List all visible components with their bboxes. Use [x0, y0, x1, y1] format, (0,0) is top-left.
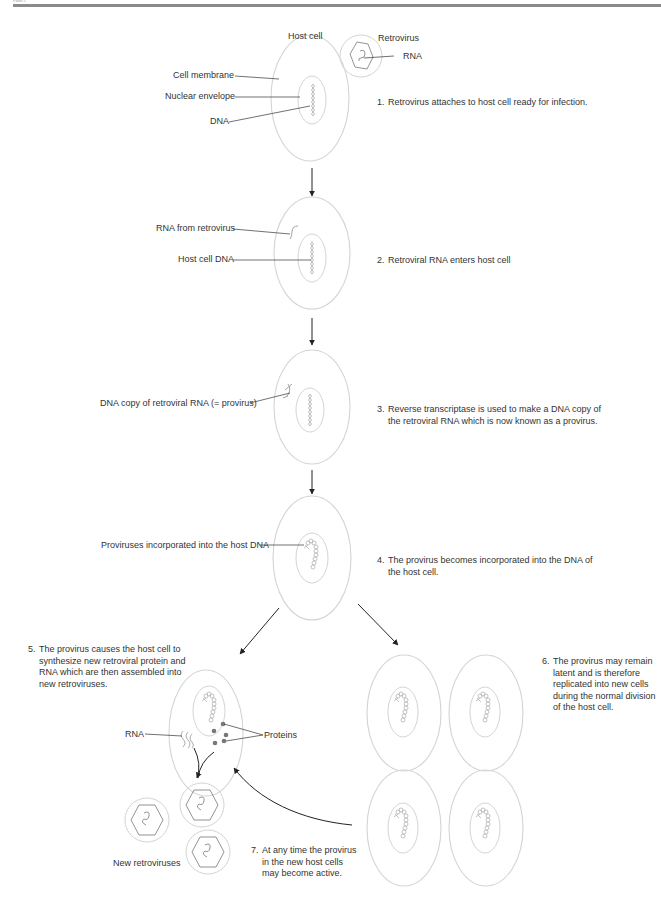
label-dna-copy-provirus: DNA copy of retroviral RNA (= provirus) [100, 398, 257, 409]
label-cell-membrane: Cell membrane [173, 70, 234, 81]
step-2-number: 2. [377, 255, 385, 267]
stage-2-host-cell [274, 197, 350, 309]
label-host-cell: Host cell [288, 31, 323, 42]
step-4-number: 4. [377, 555, 385, 567]
label-new-retroviruses: New retroviruses [113, 858, 181, 869]
stage-1-retrovirus [340, 35, 382, 77]
step-6-text: The provirus may remain latent and is th… [542, 656, 660, 714]
label-proviruses-incorporated: Proviruses incorporated into the host DN… [101, 540, 269, 551]
step-4: 4. The provirus becomes incorporated int… [377, 555, 607, 578]
step-7-text: At any time the provirus in the new host… [251, 845, 361, 880]
label-dna: DNA [210, 116, 229, 127]
step-3-number: 3. [377, 404, 385, 416]
stage-2-leader-lines [233, 229, 311, 260]
step-5: 5. The provirus causes the host cell to … [28, 644, 188, 690]
label-nuclear-envelope: Nuclear envelope [165, 91, 235, 102]
step-6-number: 6. [542, 656, 550, 668]
arrow-4-to-6 [358, 604, 398, 645]
label-retrovirus: Retrovirus [378, 33, 419, 44]
retrovirus-lifecycle-diagram [0, 0, 661, 909]
protein-dots [212, 722, 229, 746]
step-3: 3. Reverse transcriptase is used to make… [377, 404, 607, 427]
step-5-text: The provirus causes the host cell to syn… [28, 644, 188, 690]
assembly-arrow-right [198, 752, 214, 778]
stage-5-leader-lines [145, 724, 263, 741]
label-host-cell-dna: Host cell DNA [178, 254, 234, 265]
step-6: 6. The provirus may remain latent and is… [542, 656, 660, 714]
step-4-text: The provirus becomes incorporated into t… [377, 555, 607, 578]
step-7: 7. At any time the provirus in the new h… [251, 845, 361, 880]
label-rna: RNA [403, 51, 422, 62]
stage-3-host-cell [274, 350, 350, 464]
reactivation-arrow [234, 768, 352, 825]
step-7-number: 7. [251, 845, 259, 857]
step-2-text: Retroviral RNA enters host cell [377, 255, 657, 267]
label-rna-stage5: RNA [125, 729, 144, 740]
label-proteins: Proteins [264, 730, 297, 741]
stage-4-host-cell [273, 496, 351, 620]
step-5-number: 5. [28, 644, 36, 656]
arrow-4-to-5 [240, 608, 279, 654]
step-1-text: Retrovirus attaches to host cell ready f… [377, 97, 657, 109]
stage-6-daughter-cells [367, 655, 523, 886]
step-1-number: 1. [377, 97, 385, 109]
step-3-text: Reverse transcriptase is used to make a … [377, 404, 607, 427]
assembly-arrow-left [194, 748, 199, 778]
stage-1-host-cell [271, 35, 349, 161]
step-2: 2. Retroviral RNA enters host cell [377, 255, 657, 267]
label-rna-from-retrovirus: RNA from retrovirus [156, 223, 235, 234]
step-1: 1. Retrovirus attaches to host cell read… [377, 97, 657, 109]
